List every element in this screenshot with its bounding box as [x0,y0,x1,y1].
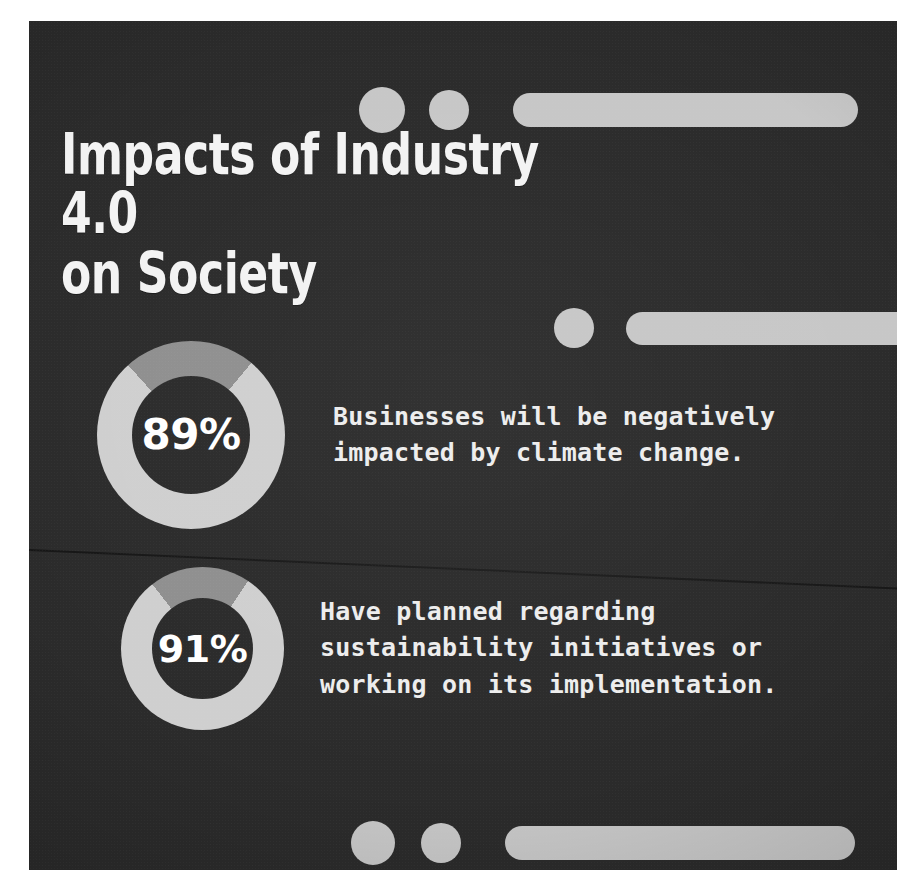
donut-hole: 91% [152,598,253,699]
stat-caption: Have planned regarding sustainability in… [320,594,778,703]
donut-chart-89: 89% [97,341,285,529]
deco-bar [505,826,855,860]
stat-caption: Businesses will be negatively impacted b… [333,399,775,472]
deco-dot [421,823,461,863]
donut-chart-91: 91% [121,567,284,730]
donut-hole: 89% [132,376,250,494]
deco-dot [351,821,395,865]
donut-value-label: 89% [141,414,240,456]
donut-value-label: 91% [158,630,247,668]
stat-row: 89% Businesses will be negatively impact… [97,341,775,529]
infographic-card: Impacts of Industry 4.0 on Society 89% B… [29,21,897,870]
stat-row: 91% Have planned regarding sustainabilit… [121,567,778,730]
deco-bar [513,93,858,127]
deco-row-bottom [351,821,855,865]
page-title: Impacts of Industry 4.0 on Society [61,125,543,303]
deco-bar [626,312,897,345]
